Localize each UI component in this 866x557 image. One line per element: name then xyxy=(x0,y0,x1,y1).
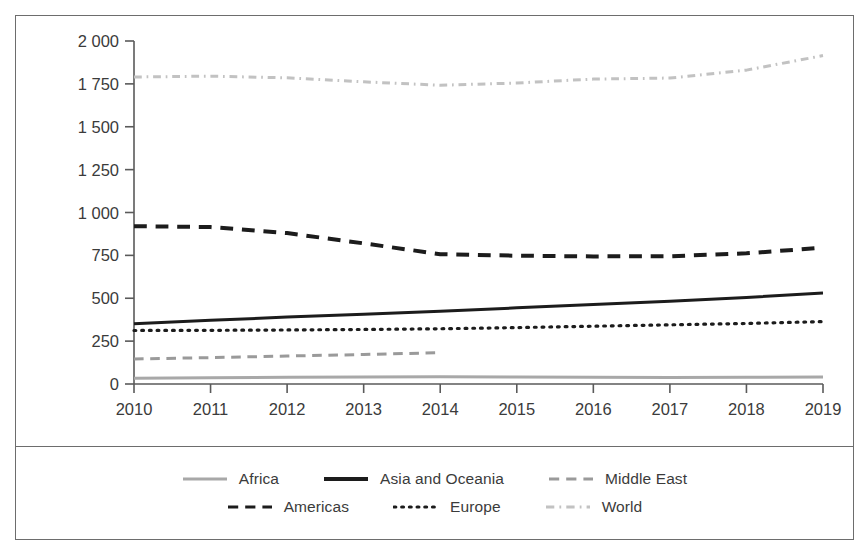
legend-label: Asia and Oceania xyxy=(380,470,504,488)
legend-swatch-dotted xyxy=(393,500,439,514)
chart-legend: AfricaAsia and OceaniaMiddle East Americ… xyxy=(16,447,853,539)
series-line xyxy=(134,293,823,324)
legend-swatch-dashdot xyxy=(545,500,591,514)
series-line xyxy=(134,56,823,86)
x-tick-label: 2010 xyxy=(116,400,153,418)
series-line xyxy=(134,226,823,256)
legend-label: Europe xyxy=(450,498,501,516)
x-tick-label: 2015 xyxy=(498,400,535,418)
x-tick-label: 2012 xyxy=(269,400,306,418)
legend-item[interactable]: Middle East xyxy=(548,470,687,488)
y-tick-label: 1 500 xyxy=(78,118,119,136)
x-tick-label: 2019 xyxy=(805,400,842,418)
legend-item[interactable]: Africa xyxy=(182,470,279,488)
legend-item[interactable]: Europe xyxy=(393,498,501,516)
x-tick-label: 2013 xyxy=(345,400,382,418)
series-line xyxy=(134,322,823,331)
y-tick-label: 500 xyxy=(91,289,119,307)
legend-row: AmericasEuropeWorld xyxy=(227,498,643,516)
legend-swatch-solid xyxy=(182,472,228,486)
legend-item[interactable]: Asia and Oceania xyxy=(323,470,504,488)
x-tick-label: 2014 xyxy=(422,400,459,418)
y-tick-label: 750 xyxy=(91,246,119,264)
legend-label: Americas xyxy=(284,498,349,516)
legend-label: Africa xyxy=(239,470,279,488)
legend-item[interactable]: Americas xyxy=(227,498,349,516)
y-tick-label: 250 xyxy=(91,332,119,350)
legend-row: AfricaAsia and OceaniaMiddle East xyxy=(182,470,687,488)
series-line xyxy=(134,353,440,359)
legend-swatch-solid xyxy=(323,472,369,486)
y-tick-label: 2 000 xyxy=(78,32,119,50)
legend-label: Middle East xyxy=(605,470,687,488)
x-tick-label: 2016 xyxy=(575,400,612,418)
y-tick-label: 1 000 xyxy=(78,204,119,222)
line-chart: 02505007501 0001 2501 5001 7502 00020102… xyxy=(16,16,855,446)
legend-swatch-dashed xyxy=(548,472,594,486)
y-tick-label: 1 750 xyxy=(78,75,119,93)
x-tick-label: 2017 xyxy=(652,400,689,418)
legend-label: World xyxy=(602,498,643,516)
y-tick-label: 1 250 xyxy=(78,161,119,179)
figure-frame: Constant (2018) US$ billion 02505007501 … xyxy=(15,15,854,540)
x-tick-label: 2018 xyxy=(728,400,765,418)
plot-area: Constant (2018) US$ billion 02505007501 … xyxy=(16,16,853,446)
y-axis-label: Constant (2018) US$ billion xyxy=(28,0,54,42)
legend-item[interactable]: World xyxy=(545,498,643,516)
x-tick-label: 2011 xyxy=(193,400,228,418)
legend-swatch-dashed xyxy=(227,500,273,514)
series-line xyxy=(134,377,823,379)
y-tick-label: 0 xyxy=(110,375,119,393)
